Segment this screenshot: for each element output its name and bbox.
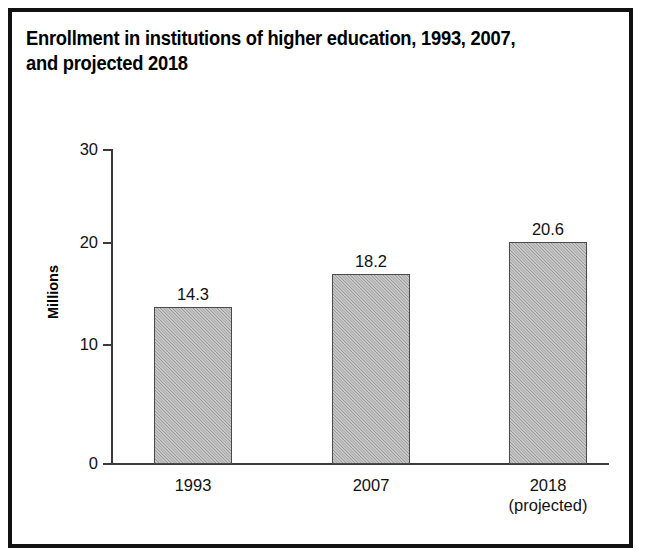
y-tick-mark-20	[103, 242, 112, 244]
bar-value-2018: 20.6	[509, 221, 587, 238]
y-tick-label-10: 10	[54, 336, 98, 353]
bar-value-2007: 18.2	[332, 253, 410, 270]
bar-2007	[332, 274, 410, 464]
x-tick-label-1993-text: 1993	[175, 476, 212, 494]
y-tick-mark-0	[103, 463, 112, 465]
y-tick-label-0: 0	[54, 455, 98, 472]
y-axis-line	[111, 149, 113, 464]
y-axis-title: Millions	[45, 242, 61, 342]
x-tick-label-2018: 2018 (projected)	[499, 475, 597, 515]
x-tick-label-2007: 2007	[322, 475, 420, 495]
x-tick-sublabel-2018: (projected)	[499, 495, 597, 515]
x-tick-label-2018-text: 2018	[530, 476, 567, 494]
figure-frame: Enrollment in institutions of higher edu…	[8, 8, 633, 548]
x-tick-label-2007-text: 2007	[353, 476, 390, 494]
bar-value-1993: 14.3	[154, 286, 232, 303]
plot-area: Millions 30 20 10 0 14.3 1993	[12, 12, 637, 552]
y-tick-label-20: 20	[54, 234, 98, 251]
bar-1993	[154, 307, 232, 464]
bar-2018	[509, 242, 587, 464]
y-tick-label-30: 30	[54, 141, 98, 158]
y-tick-mark-10	[103, 344, 112, 346]
y-tick-mark-30	[103, 149, 112, 151]
x-tick-label-1993: 1993	[144, 475, 242, 495]
